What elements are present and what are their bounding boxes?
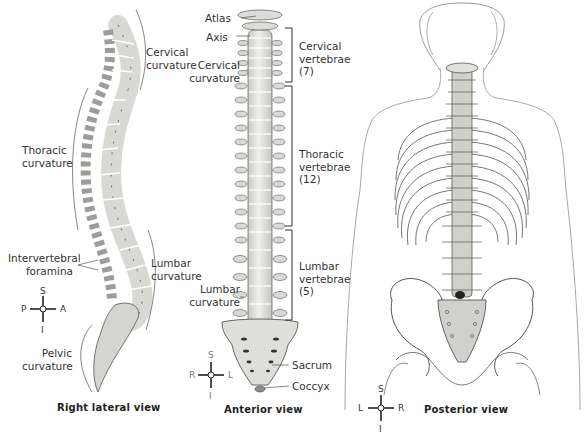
compass-anterior-s: S [208,350,214,360]
label-cervical-curvature-anterior: Cervical curvature [186,59,240,84]
compass-anterior-i: I [209,391,212,401]
compass-posterior-i: I [379,424,382,434]
bracket-label-cervical-vertebrae: Cervical vertebrae (7) [299,40,350,78]
label-pelvic-curvature: Pelvic curvature [22,347,72,372]
compass-posterior-s: S [378,384,384,394]
label-line: Pelvic [22,347,72,360]
label-thoracic-curvature: Thoracic curvature [22,144,66,169]
label-line: Intervertebral [8,252,73,265]
compass-lateral-p: P [21,304,26,314]
caption-posterior-view: Posterior view [424,404,508,415]
spine-illustration [0,0,585,442]
compass-lateral-i: I [41,325,44,335]
label-line: Lumbar [299,260,350,273]
label-count: (7) [299,65,350,78]
bracket-label-thoracic-vertebrae: Thoracic vertebrae (12) [299,148,350,186]
label-lumbar-curvature-lateral: Lumbar curvature [151,257,202,282]
label-line: curvature [22,157,66,170]
label-count: (5) [299,285,350,298]
label-line: Cervical [146,46,197,59]
label-line: curvature [186,72,240,85]
label-line: Cervical [186,59,240,72]
compass-lateral [30,296,56,322]
compass-posterior-r: R [398,403,404,413]
compass-lateral-a: A [60,304,66,314]
label-atlas: Atlas [205,12,231,25]
label-line: Cervical [299,40,350,53]
label-line: foramina [8,265,73,278]
label-line: curvature [22,360,72,373]
label-line: Lumbar [151,257,202,270]
label-line: vertebrae [299,53,350,66]
label-line: curvature [187,296,240,309]
label-line: Thoracic [22,144,66,157]
label-line: Thoracic [299,148,350,161]
label-intervertebral-foramina: Intervertebral foramina [8,252,73,277]
compass-lateral-s: S [40,286,46,296]
bracket-label-lumbar-vertebrae: Lumbar vertebrae (5) [299,260,350,298]
compass-posterior-l: L [358,403,363,413]
caption-right-lateral-view: Right lateral view [57,402,161,413]
right-lateral-spine [73,10,156,392]
label-lumbar-curvature-anterior: Lumbar curvature [187,283,240,308]
label-line: Lumbar [187,283,240,296]
label-line: vertebrae [299,161,350,174]
label-coccyx: Coccyx [292,380,330,393]
label-line: curvature [151,270,202,283]
caption-anterior-view: Anterior view [224,404,303,415]
compass-anterior-r: R [189,370,195,380]
posterior-body [345,3,580,410]
compass-anterior [198,362,224,388]
compass-posterior [368,395,394,421]
label-axis: Axis [206,31,228,44]
label-sacrum: Sacrum [292,359,332,372]
label-line: vertebrae [299,273,350,286]
label-count: (12) [299,173,350,186]
compass-anterior-l: L [228,370,233,380]
